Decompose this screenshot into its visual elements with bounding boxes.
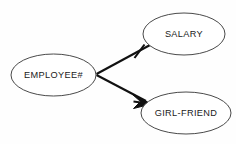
entity-girlfriend[interactable]: GIRL-FRIEND: [141, 92, 231, 134]
entity-salary[interactable]: SALARY: [143, 13, 225, 55]
relationship-employee-girlfriend[interactable]: [97, 75, 152, 109]
entity-label-salary: SALARY: [165, 29, 203, 39]
relationship-employee-salary[interactable]: [97, 45, 152, 75]
er-diagram-svg: EMPLOYEE# SALARY GIRL-FRIEND: [0, 0, 236, 144]
connector-line-employee-salary: [97, 45, 152, 75]
entity-label-employee: EMPLOYEE#: [24, 70, 83, 80]
cardinality-one-tick-salary: [135, 45, 145, 59]
entity-employee[interactable]: EMPLOYEE#: [11, 54, 96, 96]
entity-label-girlfriend: GIRL-FRIEND: [155, 108, 218, 118]
er-diagram-canvas: EMPLOYEE# SALARY GIRL-FRIEND: [0, 0, 236, 144]
